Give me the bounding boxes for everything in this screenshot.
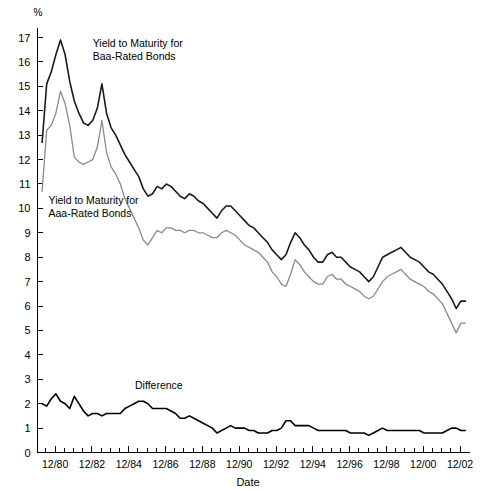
x-axis-tick-label: 12/94	[300, 458, 326, 470]
chart-canvas: 0123456789101112131415161712/8012/8212/8…	[0, 0, 483, 490]
x-axis-title: Date	[236, 476, 259, 488]
axes-group: 0123456789101112131415161712/8012/8212/8…	[18, 28, 473, 470]
y-axis-tick-label: 3	[24, 373, 30, 385]
annotations-group: Yield to Maturity forBaa-Rated BondsYiel…	[49, 37, 184, 391]
y-axis-tick-label: 9	[24, 227, 30, 239]
y-axis-tick-label: 8	[24, 251, 30, 263]
y-axis-tick-label: 6	[24, 300, 30, 312]
x-axis-tick-label: 12/88	[189, 458, 215, 470]
y-axis-tick-label: 13	[18, 129, 30, 141]
x-axis-tick-label: 12/82	[79, 458, 105, 470]
x-axis-tick-label: 12/02	[447, 458, 473, 470]
x-axis-tick-label: 12/90	[226, 458, 252, 470]
series-line-baa	[42, 40, 465, 309]
series-line-difference	[42, 394, 465, 436]
x-axis-tick-label: 12/80	[42, 458, 68, 470]
annotation-aaa-label: Yield to Maturity forAaa-Rated Bonds	[49, 194, 140, 219]
series-group	[42, 40, 465, 435]
annotation-line-2: Baa-Rated Bonds	[93, 50, 176, 62]
annotation-line-2: Aaa-Rated Bonds	[49, 207, 132, 219]
y-axis-unit-label: %	[34, 7, 43, 18]
annotation-line-1: Yield to Maturity for	[93, 37, 184, 49]
x-axis-tick-label: 12/96	[336, 458, 362, 470]
y-axis-tick-label: 5	[24, 324, 30, 336]
x-axis-tick-label: 12/98	[373, 458, 399, 470]
y-axis-tick-label: 17	[18, 32, 30, 44]
bond-yield-chart: 0123456789101112131415161712/8012/8212/8…	[0, 0, 483, 490]
annotation-baa-label: Yield to Maturity forBaa-Rated Bonds	[93, 37, 184, 62]
annotation-difference-label: Difference	[135, 379, 183, 391]
x-axis-tick-label: 12/86	[152, 458, 178, 470]
y-axis-tick-label: 0	[24, 447, 30, 459]
y-axis-tick-label: 11	[19, 178, 30, 190]
x-axis-tick-label: 12/00	[410, 458, 436, 470]
y-axis-tick-label: 14	[18, 105, 30, 117]
y-axis-tick-label: 1	[24, 422, 30, 434]
y-axis-tick-label: 15	[18, 80, 30, 92]
y-axis-tick-label: 16	[18, 56, 30, 68]
x-axis-tick-label: 12/84	[116, 458, 142, 470]
y-axis-tick-label: 7	[24, 276, 30, 288]
y-axis-tick-label: 12	[18, 154, 30, 166]
y-axis-tick-label: 2	[24, 398, 30, 410]
y-axis-tick-label: 10	[18, 202, 30, 214]
annotation-line-1: Difference	[135, 379, 183, 391]
x-axis-tick-label: 12/92	[263, 458, 289, 470]
y-axis-tick-label: 4	[24, 349, 30, 361]
annotation-line-1: Yield to Maturity for	[49, 194, 140, 206]
